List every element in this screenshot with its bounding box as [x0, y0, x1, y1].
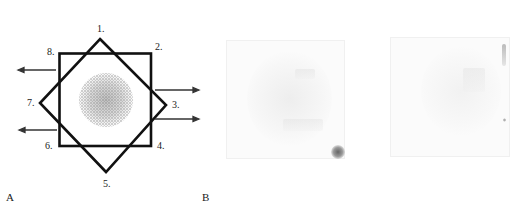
arrow-right-icon [155, 117, 199, 122]
panel-label-a: A [6, 192, 14, 203]
point-label-3: 3. [172, 100, 180, 110]
arrow-right-icon [155, 88, 199, 93]
arrow-left-icon [19, 128, 57, 133]
stippled-sample [78, 72, 134, 128]
photo-right-haze [421, 46, 501, 136]
point-label-6: 6. [45, 141, 53, 151]
point-label-2: 2. [155, 42, 163, 52]
dark-spot [331, 145, 345, 159]
point-label-8: 8. [47, 47, 55, 57]
arrow-left-icon [18, 68, 56, 73]
point-label-1: 1. [97, 24, 105, 34]
photo-left [226, 40, 345, 159]
panel-label-b: B [202, 192, 209, 203]
figure: 1. 2. 3. 4. 5. 6. 7. 8. A B [0, 0, 523, 213]
photo-left-streak [295, 69, 315, 79]
photo-right-streak [502, 44, 506, 66]
photo-left-streak [283, 119, 323, 131]
photo-right [390, 37, 510, 157]
panel-a-diagram: 1. 2. 3. 4. 5. 6. 7. 8. A [0, 0, 210, 213]
photo-right-streak [463, 68, 485, 92]
small-spot [503, 118, 506, 122]
point-label-7: 7. [27, 98, 35, 108]
point-label-4: 4. [157, 141, 165, 151]
photo-left-haze [247, 51, 332, 146]
point-label-5: 5. [103, 179, 111, 189]
